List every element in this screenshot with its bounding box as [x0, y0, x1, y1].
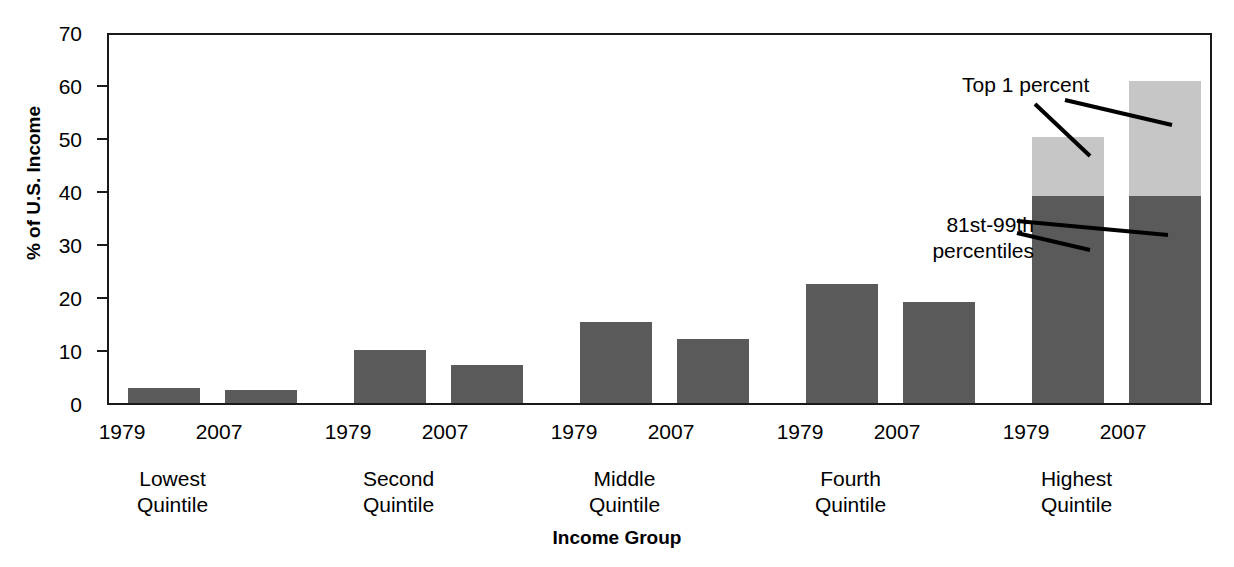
group-label-line-1: Fourth: [748, 466, 953, 492]
y-tick-label-70: 70: [20, 23, 82, 44]
bar-segment-lower: [354, 350, 426, 403]
x-group-label-middle: Middle Quintile: [522, 466, 727, 518]
chart-root: 70 60 50 40 30 20 10 0 % of U.S. Income: [0, 0, 1234, 567]
annotation-line-1: 81st-99th: [884, 212, 1034, 238]
annotation-top-1-percent: Top 1 percent: [962, 72, 1089, 98]
group-label-line-2: Quintile: [296, 492, 501, 518]
group-label-line-2: Quintile: [974, 492, 1179, 518]
x-year-label-middle-1979: 1979: [538, 421, 610, 442]
annotation-81st-99th-percentiles: 81st-99th percentiles: [884, 212, 1034, 264]
group-label-line-1: Second: [296, 466, 501, 492]
x-group-label-lowest: Lowest Quintile: [70, 466, 275, 518]
group-label-line-1: Highest: [974, 466, 1179, 492]
x-group-label-fourth: Fourth Quintile: [748, 466, 953, 518]
bar-lowest-1979: [128, 388, 200, 403]
bar-segment-lower: [1129, 196, 1201, 403]
x-year-label-lowest-1979: 1979: [86, 421, 158, 442]
bar-highest-1979: [1032, 137, 1104, 403]
x-year-label-fourth-1979: 1979: [764, 421, 836, 442]
y-axis: 70 60 50 40 30 20 10 0: [0, 0, 107, 440]
bar-second-1979: [354, 350, 426, 403]
x-year-label-fourth-2007: 2007: [861, 421, 933, 442]
bar-segment-lower: [128, 388, 200, 403]
bar-segment-lower: [806, 284, 878, 403]
bar-segment-lower: [677, 339, 749, 403]
bar-segment-lower: [903, 302, 975, 404]
bar-segment-lower: [451, 365, 523, 403]
bar-segment-upper: [1129, 81, 1201, 196]
x-year-label-highest-1979: 1979: [990, 421, 1062, 442]
bar-highest-2007: [1129, 81, 1201, 403]
bar-segment-lower: [1032, 196, 1104, 403]
x-year-label-lowest-2007: 2007: [183, 421, 255, 442]
x-year-label-middle-2007: 2007: [635, 421, 707, 442]
annotation-line-2: percentiles: [884, 238, 1034, 264]
x-year-label-second-1979: 1979: [312, 421, 384, 442]
group-label-line-1: Lowest: [70, 466, 275, 492]
y-tick-label-10: 10: [20, 341, 82, 362]
group-label-line-2: Quintile: [748, 492, 953, 518]
group-label-line-2: Quintile: [70, 492, 275, 518]
y-axis-title: % of U.S. Income: [23, 53, 45, 313]
x-year-label-highest-2007: 2007: [1087, 421, 1159, 442]
x-axis-title: Income Group: [0, 527, 1234, 549]
bar-fourth-1979: [806, 284, 878, 403]
bar-lowest-2007: [225, 390, 297, 403]
bar-fourth-2007: [903, 302, 975, 404]
x-group-label-highest: Highest Quintile: [974, 466, 1179, 518]
bar-segment-lower: [225, 390, 297, 403]
group-label-line-1: Middle: [522, 466, 727, 492]
x-year-label-second-2007: 2007: [409, 421, 481, 442]
bar-segment-lower: [580, 322, 652, 403]
bar-second-2007: [451, 365, 523, 403]
bar-middle-1979: [580, 322, 652, 403]
x-group-label-second: Second Quintile: [296, 466, 501, 518]
bar-middle-2007: [677, 339, 749, 403]
y-tick-label-0: 0: [20, 394, 82, 415]
bar-segment-upper: [1032, 137, 1104, 196]
group-label-line-2: Quintile: [522, 492, 727, 518]
